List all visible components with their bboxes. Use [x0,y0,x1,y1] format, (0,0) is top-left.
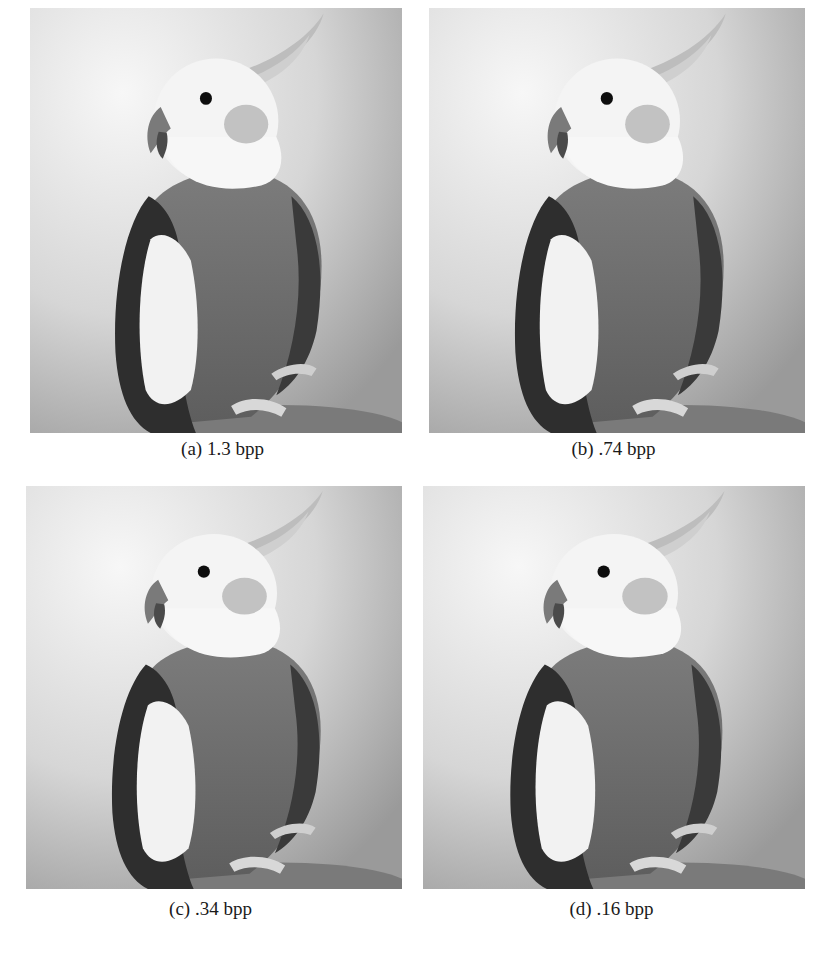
caption-a: (a) 1.3 bpp [18,438,427,460]
figure-panel-d: (d) .16 bpp [409,478,818,956]
figure-panel-c: (c) .34 bpp [0,478,409,956]
bird-image-b [429,8,805,433]
caption-b: (b) .74 bpp [409,438,818,460]
figure-panel-a: (a) 1.3 bpp [0,0,409,478]
bird-image-c [26,486,402,889]
bird-image-d [423,486,805,889]
caption-d: (d) .16 bpp [407,898,816,920]
figure-panel-b: (b) .74 bpp [409,0,818,478]
caption-c: (c) .34 bpp [6,898,415,920]
bird-image-a [30,8,402,433]
